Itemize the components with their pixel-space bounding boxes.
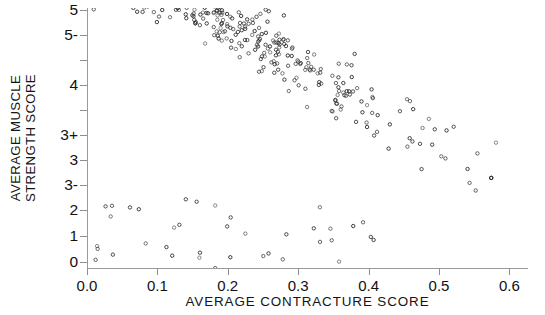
x-axis-tick-mark [157,269,158,275]
scatter-plot-figure: AVERAGE MUSCLE STRENGTH SCORE 55-43+33-2… [0,0,545,315]
x-axis-tick-mark [298,269,299,275]
plot-area [87,8,527,268]
x-axis-tick-label: 0.0 [64,277,110,294]
y-axis-tick-label: 2 [50,202,78,218]
scatter-points-layer [87,8,527,268]
x-axis-tick-mark [439,269,440,275]
y-axis-tick-mark [80,35,87,36]
x-axis-tick-mark [369,269,370,275]
y-axis-title-line1: AVERAGE MUSCLE [8,74,23,202]
y-axis-tick-mark [80,110,87,111]
y-axis-tick-label: 3- [50,177,78,193]
x-axis-tick-mark [87,269,88,275]
y-axis-title-line2: STRENGTH SCORE [23,74,38,202]
x-axis-tick-label: 0.1 [134,277,180,294]
x-axis-tick-label: 0.3 [275,277,321,294]
y-axis-tick-label: 1 [50,228,78,244]
y-axis-tick-mark [80,10,87,11]
x-axis-tick-label: 0.5 [416,277,462,294]
x-axis-line [87,268,528,269]
y-axis-tick-mark [80,236,87,237]
y-axis-tick-mark [80,185,87,186]
x-axis-title: AVERAGE CONTRACTURE SCORE [87,294,528,309]
x-axis-tick-label: 0.2 [205,277,251,294]
y-axis-tick-mark [80,135,87,136]
x-axis-tick-mark [509,269,510,275]
y-axis-tick-mark [80,160,87,161]
y-axis-tick-label: 4 [50,77,78,93]
y-axis-title: AVERAGE MUSCLE STRENGTH SCORE [0,0,46,275]
x-axis-tick-label: 0.4 [346,277,392,294]
y-axis-tick-label: 3+ [50,127,78,143]
y-axis-tick-label: 5 [50,2,78,18]
y-axis-tick-label: 5- [50,27,78,43]
x-axis-tick-mark [228,269,229,275]
x-axis-tick-label: 0.6 [486,277,532,294]
y-axis-tick-mark [80,262,87,263]
y-axis-tick-mark [80,60,87,61]
y-axis-tick-labels: 55-43+33-210 [48,0,78,280]
y-axis-tick-mark [80,210,87,211]
y-axis-tick-label: 0 [50,254,78,270]
y-axis-tick-label: 3 [50,152,78,168]
scatter-series-patients [87,8,527,268]
y-axis-tick-mark [80,85,87,86]
